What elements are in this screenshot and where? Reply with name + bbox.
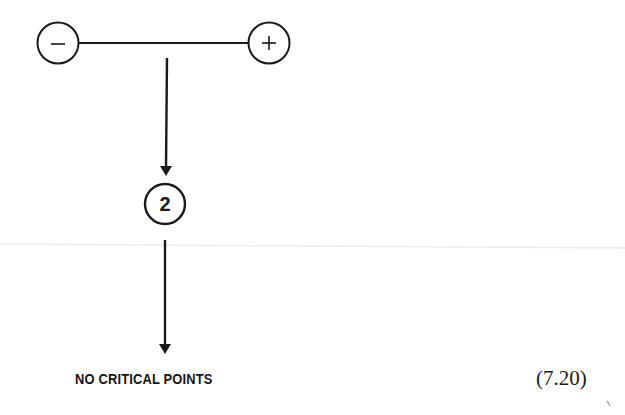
scan-speck	[607, 401, 610, 406]
result-caption: NO CRITICAL POINTS	[75, 371, 213, 387]
state-node-2: 2	[145, 184, 185, 224]
arrowhead-icon	[159, 344, 171, 354]
scan-artifact-line	[0, 244, 625, 248]
plus-node	[249, 23, 290, 64]
arrowhead-icon	[160, 166, 172, 176]
diagram: 2 NO CRITICAL POINTS (7.20)	[0, 0, 625, 415]
down-arrow-1	[166, 58, 167, 168]
minus-node	[38, 23, 79, 64]
flow-diagram-canvas: 2	[0, 0, 625, 415]
minus-node-circle	[38, 23, 79, 64]
equation-number: (7.20)	[536, 366, 587, 391]
state-node-label: 2	[159, 193, 170, 215]
